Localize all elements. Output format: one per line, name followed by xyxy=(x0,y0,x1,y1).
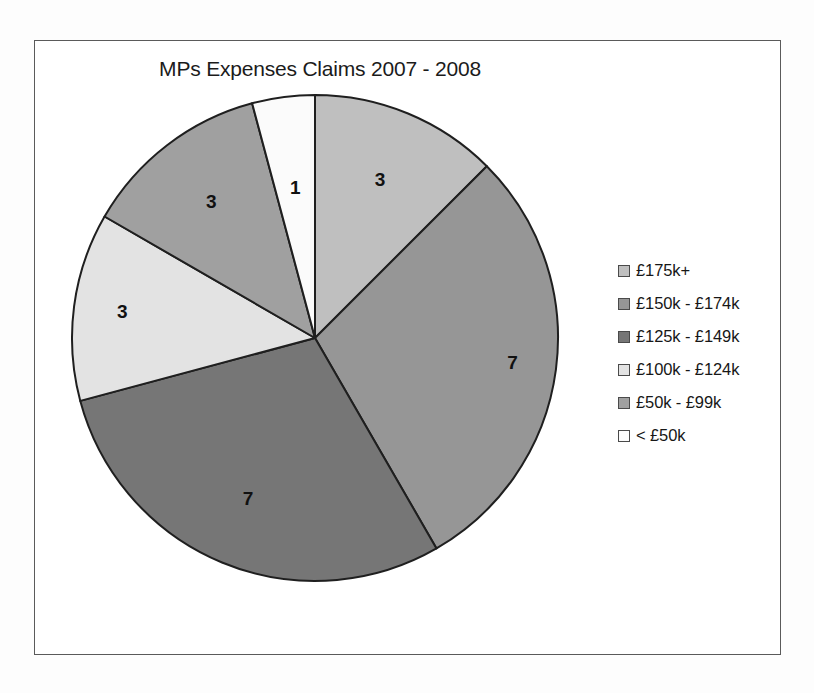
pie-slice-value-label: 1 xyxy=(290,177,301,198)
legend-item: £175k+ xyxy=(618,254,778,287)
pie-slice-value-label: 7 xyxy=(507,352,518,373)
pie-chart: 377331 xyxy=(65,88,565,588)
legend: £175k+£150k - £174k£125k - £149k£100k - … xyxy=(618,254,778,452)
legend-item: £50k - £99k xyxy=(618,386,778,419)
pie-slice-value-label: 7 xyxy=(243,488,254,509)
pie-slice-value-label: 3 xyxy=(206,191,217,212)
legend-swatch-icon xyxy=(618,397,630,409)
legend-item-label: £175k+ xyxy=(636,261,690,280)
pie-slice-value-label: 3 xyxy=(375,169,386,190)
pie-slices-group xyxy=(72,95,558,581)
legend-item-label: £125k - £149k xyxy=(636,327,739,346)
legend-item-label: £150k - £174k xyxy=(636,294,739,313)
legend-swatch-icon xyxy=(618,430,630,442)
legend-swatch-icon xyxy=(618,364,630,376)
legend-item-label: £100k - £124k xyxy=(636,360,739,379)
page-background: MPs Expenses Claims 2007 - 2008 377331 £… xyxy=(0,0,814,693)
legend-item: £100k - £124k xyxy=(618,353,778,386)
chart-frame: MPs Expenses Claims 2007 - 2008 377331 £… xyxy=(34,40,781,655)
legend-item-label: < £50k xyxy=(636,426,685,445)
legend-item-label: £50k - £99k xyxy=(636,393,721,412)
legend-swatch-icon xyxy=(618,298,630,310)
legend-swatch-icon xyxy=(618,265,630,277)
legend-item: £125k - £149k xyxy=(618,320,778,353)
legend-swatch-icon xyxy=(618,331,630,343)
legend-item: < £50k xyxy=(618,419,778,452)
legend-item: £150k - £174k xyxy=(618,287,778,320)
pie-slice-value-label: 3 xyxy=(117,301,128,322)
